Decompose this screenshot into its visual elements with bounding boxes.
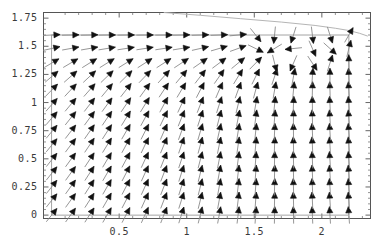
- y-tick-label: 1.5: [18, 40, 38, 51]
- vector-arrow: [217, 152, 223, 169]
- vector-arrow: [155, 45, 172, 51]
- plot-canvas: [0, 0, 383, 243]
- vector-arrow: [176, 70, 187, 83]
- vector-arrow: [272, 69, 278, 85]
- y-tick-label: 1: [31, 97, 38, 108]
- y-tick-label: 0.5: [18, 153, 38, 164]
- vector-arrow: [85, 138, 95, 152]
- vector-arrow: [121, 98, 131, 112]
- vector-arrow: [267, 44, 282, 53]
- vector-arrow: [99, 32, 116, 38]
- x-tick-label: 1.5: [224, 226, 284, 237]
- vector-arrow: [217, 110, 223, 126]
- vector-arrow: [62, 32, 79, 38]
- vector-arrow: [212, 58, 226, 68]
- y-tick-label: 0.75: [11, 125, 37, 136]
- vector-arrow: [173, 32, 190, 38]
- vector-arrow: [235, 82, 241, 98]
- vector-arrow: [102, 111, 112, 125]
- y-tick-label: 0: [31, 209, 38, 220]
- vector-arrow: [122, 124, 130, 139]
- vector-arrow: [65, 84, 77, 96]
- vector-arrow: [85, 180, 94, 194]
- vector-arrow: [85, 153, 94, 167]
- vector-arrow: [85, 125, 95, 139]
- vector-arrow: [230, 45, 246, 51]
- vector-arrow: [179, 192, 185, 208]
- vector-arrow: [272, 123, 278, 140]
- vector-arrows: [43, 27, 353, 224]
- vector-arrow: [285, 46, 302, 52]
- vector-arrow: [136, 32, 153, 38]
- vector-arrow: [309, 41, 316, 57]
- vector-arrow: [290, 55, 297, 71]
- vector-arrow: [161, 137, 168, 153]
- vector-arrow: [103, 180, 111, 195]
- vector-arrow: [198, 137, 204, 153]
- vector-arrow: [140, 83, 150, 97]
- y-tick-label: 1.25: [11, 68, 37, 79]
- vector-arrow: [253, 192, 259, 209]
- vector-arrow: [291, 96, 297, 113]
- vector-arrow: [65, 112, 76, 125]
- vector-arrow: [122, 138, 130, 153]
- vector-arrow: [327, 137, 333, 154]
- vector-arrow: [84, 98, 94, 111]
- vector-arrow: [272, 55, 278, 72]
- vector-arrow: [140, 98, 149, 113]
- vector-arrow: [65, 98, 76, 111]
- vector-arrow: [84, 84, 95, 97]
- vector-arrow: [117, 32, 134, 38]
- vector-arrow: [347, 40, 353, 57]
- vector-arrow: [214, 70, 224, 84]
- vector-arrow: [62, 45, 79, 51]
- vector-arrow: [141, 124, 149, 139]
- vector-arrow: [103, 193, 111, 208]
- vector-arrow: [103, 138, 112, 153]
- vector-arrow: [81, 32, 98, 38]
- vector-arrow: [103, 166, 112, 181]
- vector-arrow: [82, 59, 96, 68]
- vector-arrow: [290, 151, 296, 168]
- vector-arrow: [65, 125, 75, 138]
- vector-arrow: [308, 56, 317, 70]
- vector-arrow: [173, 45, 190, 51]
- vector-arrow: [141, 152, 148, 167]
- vector-arrow: [122, 179, 130, 194]
- vector-arrow: [232, 58, 245, 69]
- vector-arrow: [141, 179, 148, 195]
- vector-arrow: [309, 96, 315, 113]
- vector-arrow: [100, 59, 114, 68]
- y-tick-label: 0.25: [11, 181, 37, 192]
- vector-arrow: [192, 32, 209, 38]
- vector-arrow: [66, 167, 76, 181]
- vector-arrow: [122, 166, 130, 181]
- vector-arrow: [346, 55, 352, 72]
- vector-arrow: [141, 138, 148, 153]
- vector-arrow: [272, 151, 278, 168]
- vector-arrow: [118, 45, 135, 51]
- vector-arrow: [81, 45, 98, 51]
- vector-field-plot: 00.250.50.7511.251.51.75 0.511.52: [0, 0, 383, 243]
- vector-arrow: [216, 82, 223, 98]
- vector-arrow: [66, 194, 76, 208]
- vector-arrow: [196, 83, 204, 98]
- vector-arrow: [198, 124, 204, 140]
- vector-arrow: [66, 153, 76, 167]
- y-tick-label: 1.75: [11, 12, 37, 23]
- vector-arrow: [161, 193, 168, 209]
- vector-arrow: [63, 59, 78, 68]
- x-tick-label: 2: [292, 226, 352, 237]
- vector-arrow: [195, 70, 205, 83]
- vector-arrow: [211, 45, 227, 51]
- vector-arrow: [141, 166, 148, 182]
- vector-arrow: [192, 45, 209, 51]
- vector-arrow: [253, 82, 259, 98]
- vector-arrow: [177, 83, 186, 98]
- vector-arrow: [217, 97, 223, 113]
- vector-arrow: [160, 124, 167, 140]
- vector-arrow: [272, 82, 278, 99]
- vector-arrow: [250, 57, 262, 69]
- vector-arrow: [84, 111, 94, 125]
- vector-arrow: [83, 71, 95, 83]
